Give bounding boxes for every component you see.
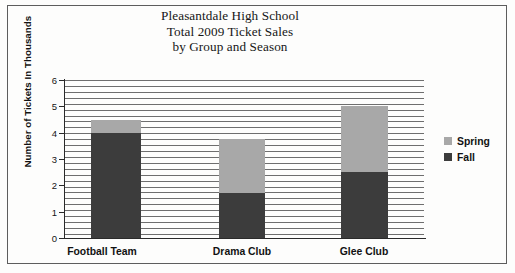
bar-segment-glee-club-fall — [341, 172, 388, 238]
chart-title: Pleasantdale High School Total 2009 Tick… — [60, 8, 400, 55]
y-axis-title: Number of Tickets In Thousands — [22, 28, 33, 168]
legend-item-fall[interactable]: Fall — [444, 150, 490, 164]
y-tick-label-4: 4 — [43, 128, 57, 139]
bar-glee-club[interactable] — [341, 106, 388, 238]
chart-title-line-1: Pleasantdale High School — [60, 8, 400, 24]
y-tick-label-5: 5 — [43, 101, 57, 112]
plot-area — [64, 80, 424, 238]
x-axis-label-drama-club: Drama Club — [196, 246, 288, 257]
x-axis-label-football-team: Football Team — [56, 246, 148, 257]
bar-segment-drama-club-fall — [219, 193, 265, 238]
y-tick-label-3: 3 — [43, 154, 57, 165]
bar-football-team[interactable] — [91, 120, 141, 239]
legend-label-fall: Fall — [457, 152, 475, 163]
legend-swatch-spring-icon — [444, 137, 452, 145]
y-axis-line — [64, 79, 65, 239]
bar-segment-glee-club-spring — [341, 106, 388, 172]
chart-title-line-2: Total 2009 Ticket Sales — [60, 24, 400, 40]
legend-label-spring: Spring — [457, 136, 490, 147]
bar-segment-football-team-spring — [91, 120, 141, 133]
x-axis-label-glee-club: Glee Club — [318, 246, 410, 257]
y-tick-label-1: 1 — [43, 207, 57, 218]
y-tick-label-0: 0 — [43, 233, 57, 244]
y-tick-label-6: 6 — [43, 75, 57, 86]
legend-swatch-fall-icon — [444, 153, 452, 161]
y-tick-label-2: 2 — [43, 180, 57, 191]
x-axis-line — [64, 238, 426, 239]
bar-segment-drama-club-spring — [219, 139, 265, 193]
chart-legend: Spring Fall — [444, 134, 490, 166]
bar-drama-club[interactable] — [219, 139, 265, 238]
chart-title-line-3: by Group and Season — [60, 39, 400, 55]
legend-item-spring[interactable]: Spring — [444, 134, 490, 148]
bar-segment-football-team-fall — [91, 133, 141, 238]
chart-figure: Pleasantdale High School Total 2009 Tick… — [0, 0, 515, 273]
